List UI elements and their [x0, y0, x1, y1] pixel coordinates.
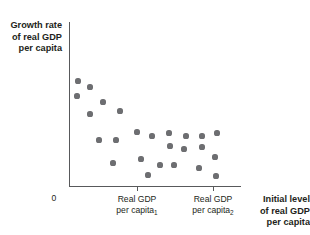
data-point [213, 173, 218, 178]
data-point [199, 144, 204, 149]
x-tick-label-2-text: per capita [192, 205, 230, 215]
y-axis-label: Growth rate of real GDP per capita [0, 20, 62, 55]
data-point [181, 146, 186, 151]
data-point [199, 133, 204, 138]
data-point [196, 165, 201, 170]
data-point [157, 162, 162, 167]
data-point [96, 137, 101, 142]
data-point [74, 93, 79, 98]
x-tick-label-1-text: per capita [116, 205, 154, 215]
plot-area [69, 22, 241, 186]
data-point [145, 172, 150, 177]
data-point [134, 129, 139, 134]
scatter-plot-figure: Growth rate of real GDP per capita 0 Rea… [0, 0, 310, 235]
data-point [214, 130, 219, 135]
y-axis-label-line-2: of real GDP [0, 32, 62, 44]
data-point [183, 133, 188, 138]
x-axis-tick [213, 186, 214, 191]
y-axis-label-line-3: per capita [0, 43, 62, 55]
data-point [113, 137, 118, 142]
data-point [166, 130, 171, 135]
data-point [100, 99, 105, 104]
x-axis-label: Initial level of real GDP per capita [246, 194, 310, 229]
origin-label: 0 [46, 193, 62, 203]
y-axis-label-line-1: Growth rate [0, 20, 62, 32]
data-point [117, 108, 122, 113]
data-point [149, 133, 154, 138]
data-point [87, 84, 92, 89]
x-axis-tick [137, 186, 138, 191]
x-axis-label-line-3: per capita [246, 217, 310, 229]
data-point [167, 143, 172, 148]
data-point [138, 156, 143, 161]
x-axis-label-line-1: Initial level [246, 194, 310, 206]
data-point [171, 162, 176, 167]
data-point [212, 154, 217, 159]
data-point [110, 160, 115, 165]
x-tick-label-2-subscript: 2 [230, 209, 234, 216]
data-point [75, 78, 80, 83]
x-tick-label-1-subscript: 1 [154, 209, 158, 216]
x-axis-label-line-2: of real GDP [246, 206, 310, 218]
data-point [87, 111, 92, 116]
